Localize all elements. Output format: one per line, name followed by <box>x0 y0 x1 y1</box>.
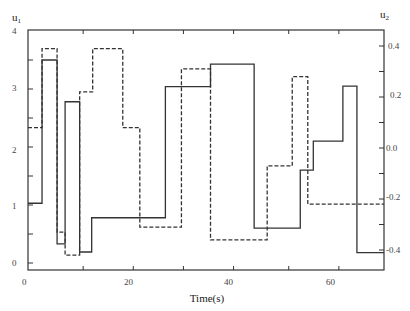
y-left-tick-4: 4 <box>12 26 17 36</box>
y-right-tick-0.0: 0.0 <box>386 143 398 153</box>
y-left-tick-1: 1 <box>12 201 17 211</box>
left-axis-title: u1 <box>12 11 22 25</box>
series-u1-line <box>28 60 384 253</box>
x-tick-40: 40 <box>224 277 234 287</box>
series-group <box>28 49 384 256</box>
right-axis-title: u2 <box>380 8 390 22</box>
series-u2-line <box>28 49 384 256</box>
y-right-tick-0.4: 0.4 <box>388 41 400 51</box>
x-tick-0: 0 <box>22 277 27 287</box>
x-tick-20: 20 <box>124 277 134 287</box>
x-tick-60: 60 <box>326 277 336 287</box>
y-left-tick-3: 3 <box>12 83 17 93</box>
y-left-tick-0: 0 <box>12 258 17 268</box>
y-right-tick-0.2: 0.2 <box>390 90 401 100</box>
axis-ticks <box>28 30 384 270</box>
step-response-chart: u1 u2 Time(s) 4 3 2 1 0 0.4 0.2 0.0 -0.2… <box>0 0 410 311</box>
x-axis-title: Time(s) <box>190 292 225 305</box>
y-left-tick-2: 2 <box>12 145 17 155</box>
y-right-tick-m0.4: -0.4 <box>386 245 401 255</box>
y-right-tick-m0.2: -0.2 <box>386 192 400 202</box>
plot-frame <box>28 30 384 270</box>
